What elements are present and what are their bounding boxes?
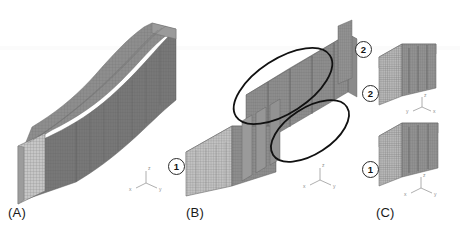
panel-label-a: (A) bbox=[8, 205, 26, 220]
panel-a-end-band bbox=[18, 146, 24, 204]
panel-b-far-sliver bbox=[338, 20, 352, 84]
panel-c-lower-side-face bbox=[402, 123, 438, 177]
callout-c-2-left: 2 bbox=[355, 41, 372, 58]
scan-seam-band bbox=[0, 46, 460, 50]
panel-c-upper-side-face bbox=[402, 44, 436, 96]
callout-b-1: 1 bbox=[168, 158, 185, 175]
callout-c-2-right: 2 bbox=[362, 85, 379, 102]
figure-container: z x y z x y z y x z x y bbox=[0, 0, 460, 230]
figure-canvas: z x y z x y z y x z x y bbox=[0, 0, 460, 230]
panel-label-b: (B) bbox=[186, 205, 204, 220]
callout-c-1: 1 bbox=[362, 161, 379, 178]
panel-label-c: (C) bbox=[376, 205, 395, 220]
